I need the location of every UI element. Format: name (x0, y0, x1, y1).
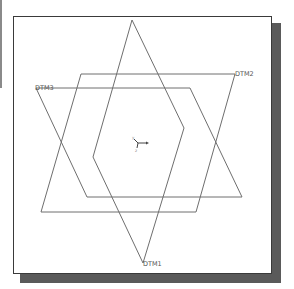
csys-z-label: z (135, 148, 137, 153)
csys-x-arrow-icon (146, 142, 149, 145)
dtm1-label: DTM1 (143, 260, 162, 268)
dtm3-label: DTM3 (35, 84, 54, 92)
dtm2-label: DTM2 (235, 70, 254, 78)
datum-planes-diagram: DTM1 DTM2 DTM3 y z (0, 0, 294, 289)
csys-y-axis (134, 139, 138, 143)
coordinate-system-icon: y z (132, 135, 149, 153)
datum-plane-dtm1[interactable] (93, 20, 184, 263)
csys-z-axis (137, 143, 138, 148)
